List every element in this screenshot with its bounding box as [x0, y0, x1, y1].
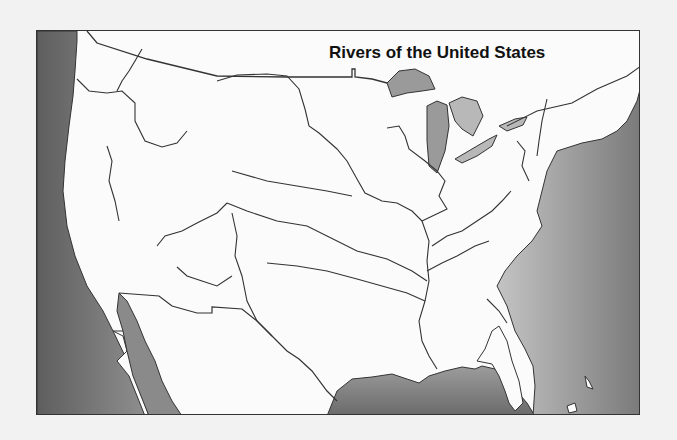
arkansas-river [227, 203, 427, 281]
map-title: Rivers of the United States [329, 43, 545, 63]
platte-river [232, 171, 352, 196]
snake-river [117, 49, 142, 91]
savannah-river [487, 299, 507, 323]
colorado-river [157, 203, 227, 246]
lake-huron [449, 97, 483, 136]
lake-ontario [499, 117, 527, 131]
lake-michigan [427, 101, 449, 173]
columbia-river [77, 79, 187, 147]
susquehanna-river [517, 141, 529, 181]
red-river [267, 263, 425, 301]
atlantic-ocean [497, 86, 640, 415]
mississippi-river-lower [419, 221, 437, 369]
hudson-river [537, 99, 547, 156]
sacramento-river [107, 146, 119, 221]
lake-superior [387, 69, 435, 97]
us-rivers-map [37, 31, 640, 415]
tennessee-river [427, 241, 489, 271]
green-river [177, 267, 232, 286]
ohio-river [432, 191, 511, 246]
map-frame [36, 30, 640, 415]
lake-erie [455, 135, 497, 163]
